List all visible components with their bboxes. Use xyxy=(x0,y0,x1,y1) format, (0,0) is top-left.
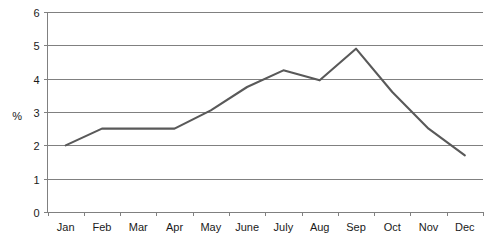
x-tick-label: Dec xyxy=(455,221,475,233)
x-tick-label: Feb xyxy=(92,221,111,233)
x-tick-label: Oct xyxy=(384,221,401,233)
x-tick-label: Mar xyxy=(129,221,148,233)
y-tick-label: 3 xyxy=(33,107,39,119)
y-tick-labels-group: 0123456 xyxy=(33,7,39,219)
y-tick-label: 6 xyxy=(33,7,39,19)
x-tick-labels-group: JanFebMarAprMayJuneJulyAugSepOctNovDec xyxy=(57,221,475,233)
x-tick-label: May xyxy=(200,221,221,233)
y-tick-label: 2 xyxy=(33,140,39,152)
x-tick-label: July xyxy=(274,221,294,233)
x-tick-label: Sep xyxy=(346,221,366,233)
chart-canvas: 0123456 JanFebMarAprMayJuneJulyAugSepOct… xyxy=(0,0,504,247)
x-tick-label: Nov xyxy=(419,221,439,233)
gridlines-group xyxy=(48,13,484,180)
data-series-line xyxy=(66,49,465,156)
y-tick-label: 4 xyxy=(33,74,39,86)
y-tick-label: 0 xyxy=(33,207,39,219)
x-tick-label: June xyxy=(235,221,259,233)
x-tick-label: Jan xyxy=(57,221,75,233)
x-tick-label: Aug xyxy=(310,221,330,233)
x-tick-label: Apr xyxy=(166,221,183,233)
y-tick-marks-group xyxy=(44,13,48,213)
y-tick-label: 1 xyxy=(33,174,39,186)
line-chart: 0123456 JanFebMarAprMayJuneJulyAugSepOct… xyxy=(0,0,504,247)
y-tick-label: 5 xyxy=(33,40,39,52)
y-axis-title: % xyxy=(12,110,22,122)
